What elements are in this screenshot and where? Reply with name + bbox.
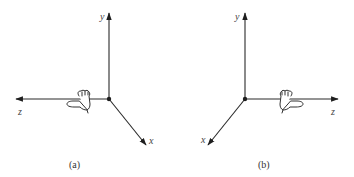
- coordinate-systems-figure: y z x y z x: [0, 0, 354, 177]
- panel-b-y-label: y: [234, 11, 240, 22]
- panel-a-z-label: z: [17, 106, 22, 117]
- panel-a: y z x: [16, 11, 154, 146]
- panel-b-origin-dot: [243, 97, 247, 101]
- right-hand-icon: [67, 90, 90, 113]
- left-hand-icon: [280, 90, 303, 113]
- panel-b-x-label: x: [200, 134, 206, 145]
- panel-a-x-label: x: [148, 135, 154, 146]
- panel-b-caption: (b): [258, 159, 270, 171]
- panel-a-origin-dot: [107, 97, 111, 101]
- panel-a-x-axis: [109, 99, 146, 145]
- panel-b: y z x: [200, 11, 338, 145]
- panel-b-x-axis: [208, 99, 245, 145]
- panel-a-y-label: y: [99, 11, 105, 22]
- panel-a-caption: (a): [69, 159, 80, 171]
- panel-b-z-label: z: [330, 106, 335, 117]
